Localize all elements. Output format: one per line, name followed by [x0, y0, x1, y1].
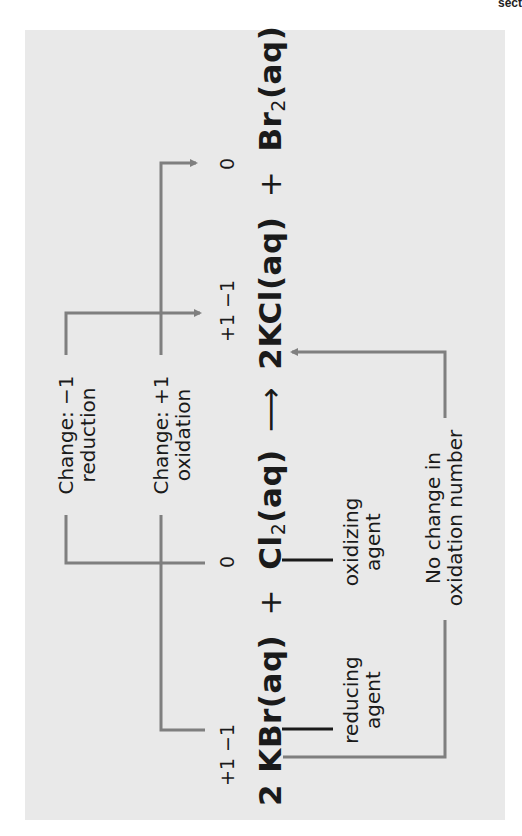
- oxidizing-agent-label: oxidizing agent: [340, 492, 384, 592]
- product-kcl: 2KCl(aq): [252, 217, 288, 370]
- oxidation-label: Change: +1 oxidation: [150, 357, 194, 513]
- reduction-change-text: Change: −1: [55, 357, 77, 513]
- no-change-line2: oxidation number: [444, 420, 466, 616]
- oxidation-name-text: oxidation: [172, 357, 194, 513]
- oxnum-kcl: +1 −1: [216, 280, 238, 342]
- no-change-label: No change in oxidation number: [422, 420, 466, 616]
- product-br2: Br2(aq): [252, 26, 288, 152]
- reduction-label: Change: −1 reduction: [55, 357, 99, 513]
- reducing-agent-line1: reducing: [340, 650, 362, 750]
- oxnum-kbr: +1 −1: [216, 724, 238, 786]
- oxidizing-agent-line2: agent: [362, 492, 384, 592]
- plus-sign-1: +: [252, 589, 288, 615]
- oxnum-br2: 0: [216, 158, 238, 170]
- oxnum-cl2: 0: [216, 556, 238, 568]
- no-change-line1: No change in: [422, 420, 444, 616]
- reactant-cl2: Cl2(aq): [252, 449, 288, 569]
- chemical-equation: 2 KBr(aq) + Cl2(aq) ⟶ 2KCl(aq) + Br2(aq): [252, 26, 289, 806]
- reduction-name-text: reduction: [77, 357, 99, 513]
- reducing-agent-line2: agent: [362, 650, 384, 750]
- reducing-agent-label: reducing agent: [340, 650, 384, 750]
- plus-sign-2: +: [252, 171, 288, 197]
- oxidizing-agent-line1: oxidizing: [340, 492, 362, 592]
- oxidation-change-text: Change: +1: [150, 357, 172, 513]
- reactant-kbr: 2 KBr(aq): [252, 635, 288, 806]
- reaction-arrow-icon: ⟶: [252, 387, 288, 432]
